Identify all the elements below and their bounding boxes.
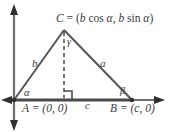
angle-beta-label: β	[120, 86, 125, 97]
triangle-diagram: C = (b cos α, b sin α) b a c α β γ A = (…	[0, 0, 169, 132]
angle-gamma-label: γ	[67, 37, 71, 47]
vertex-c-equals: =	[67, 12, 74, 24]
axis-arrow-up-icon	[10, 4, 18, 15]
vertex-c-b-second: b	[118, 12, 124, 24]
cos-function: cos	[88, 12, 103, 24]
point-b-label: B = (c, 0)	[110, 103, 155, 115]
axis-arrow-down-icon	[10, 120, 18, 131]
right-angle-marker-icon	[64, 91, 72, 100]
axis-arrow-left-icon	[1, 96, 12, 104]
point-a-label: A = (0, 0)	[22, 103, 67, 115]
vertex-c-label: C = (b cos α, b sin α)	[56, 13, 153, 25]
vertex-c-comma: ,	[113, 12, 116, 24]
angle-alpha-label: α	[24, 88, 30, 99]
axis-arrow-right-icon	[154, 96, 165, 104]
vertex-c-name: C	[56, 12, 64, 24]
vertical-axis	[10, 4, 18, 131]
side-a-label: a	[100, 58, 106, 69]
vertex-c-b-first: b	[80, 12, 86, 24]
vertex-point-a	[12, 98, 16, 102]
vertex-c-close-paren: )	[149, 12, 153, 24]
side-b-label: b	[32, 58, 38, 69]
sin-function: sin	[127, 12, 140, 24]
triangle-side-b	[14, 30, 64, 100]
side-c-label: c	[85, 101, 90, 112]
